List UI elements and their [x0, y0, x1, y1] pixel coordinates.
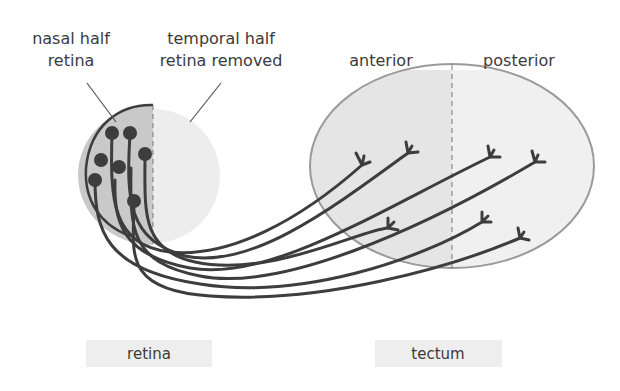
cell-body [112, 160, 126, 174]
cell-body [88, 173, 102, 187]
nasal-pointer-line [87, 83, 116, 122]
cell-body [123, 126, 137, 140]
nasal-half-label-line2: retina [48, 51, 95, 70]
temporal-half-label-line2: retina removed [160, 51, 283, 70]
retina-label: retina [127, 345, 171, 363]
anterior-label: anterior [349, 51, 413, 70]
posterior-label: posterior [483, 51, 555, 70]
cell-body [127, 194, 141, 208]
nasal-half-label: nasal half [32, 29, 110, 48]
cell-body [94, 153, 108, 167]
temporal-pointer-line [190, 83, 221, 122]
nasal-half-retina [78, 105, 153, 245]
cell-body [138, 147, 152, 161]
retinotectal-diagram: nasal half retina temporal half retina r… [0, 0, 620, 391]
tectum-label: tectum [411, 345, 464, 363]
temporal-half-label: temporal half [167, 29, 275, 48]
cell-body [105, 126, 119, 140]
